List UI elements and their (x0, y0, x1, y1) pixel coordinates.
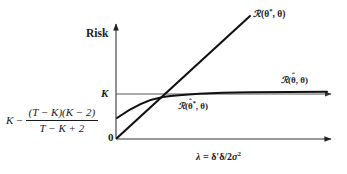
y-axis-label: Risk (86, 28, 108, 40)
comma-glyph: , (272, 9, 274, 19)
theta-hat-glyph: θˆ (291, 76, 296, 85)
intercept-lead: K (6, 115, 13, 126)
fraction-denominator: T − K + 2 (37, 121, 88, 135)
theta-hat-glyph: θˆ (188, 102, 193, 111)
comma-glyph: , (196, 101, 198, 111)
script-r-icon: ℛ (178, 101, 185, 111)
paren-close: ) (205, 101, 208, 111)
curve-label-risk-theta-star: ℛ(θ*, θ) (253, 8, 285, 20)
risk-function-figure: Risk K 0 K − (T − K)(K − 2) T − K + 2 ℛ(… (0, 0, 347, 174)
hat-accent-icon: ˆ (292, 72, 295, 81)
risk-theta-hat-star-curve (117, 92, 327, 118)
y-tick-label-k: K (101, 88, 108, 99)
delta-prime-glyph: δ' (211, 151, 219, 162)
slash-two-glyph: /2 (224, 151, 232, 162)
script-r-icon: ℛ (253, 9, 261, 19)
lambda-glyph: λ (196, 151, 200, 162)
x-axis-label: λ = δ'δ/2σ2 (196, 151, 241, 162)
script-r-icon: ℛ (281, 75, 288, 85)
plot-canvas (0, 0, 347, 174)
hat-accent-icon: ˆ (189, 98, 192, 107)
paren-close: ) (305, 75, 308, 85)
curve-label-risk-theta-hat: ℛ(θˆ, θ) (281, 76, 308, 85)
intercept-fraction: (T − K)(K − 2) T − K + 2 (26, 106, 99, 134)
intercept-expression: K − (T − K)(K − 2) T − K + 2 (6, 106, 98, 134)
origin-label: 0 (108, 132, 114, 143)
sigma-exponent: 2 (238, 150, 242, 158)
equals-glyph: = (203, 151, 209, 162)
curve-label-risk-theta-hat-star: ℛ(θˆ*, θ) (178, 100, 208, 111)
fraction-numerator: (T − K)(K − 2) (26, 106, 99, 120)
paren-close: ) (282, 9, 285, 19)
risk-theta-star-line (117, 16, 250, 138)
comma-glyph: , (296, 75, 298, 85)
intercept-minus: − (16, 115, 22, 126)
